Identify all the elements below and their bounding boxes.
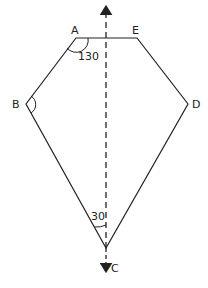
vertex-label-E: E	[132, 24, 139, 37]
vertex-label-A: A	[71, 24, 79, 37]
vertex-label-B: B	[12, 98, 20, 111]
vertex-label-D: D	[192, 98, 200, 111]
pentagon-diagram: A E B D C 130 30	[0, 0, 208, 288]
diagram-svg: A E B D C 130 30	[0, 0, 208, 288]
angle-arc-B	[31, 96, 36, 113]
pentagon-shape	[26, 38, 188, 248]
vertex-label-C: C	[111, 262, 119, 275]
angle-label-A: 130	[78, 50, 99, 63]
angle-label-C: 30	[91, 210, 105, 223]
angle-arc-C	[95, 225, 106, 227]
